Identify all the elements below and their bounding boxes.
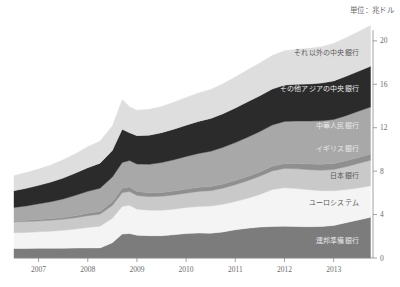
series-label-5: ユーロシステム bbox=[309, 199, 359, 207]
stacked-area-chart: 0481216202007200820092010201120122013 それ… bbox=[0, 0, 400, 287]
series-label-2: 中華人民銀行 bbox=[316, 121, 359, 130]
y-tick-label-16: 16 bbox=[380, 80, 388, 89]
chart-container: 単位：兆ドル 048121620200720082009201020112012… bbox=[0, 0, 400, 287]
series-label-1: その他アジアの中央銀行 bbox=[280, 84, 359, 93]
series-label-6: 連邦準備銀行 bbox=[316, 236, 359, 245]
x-tick-label-2008: 2008 bbox=[80, 265, 95, 274]
x-tick-label-2013: 2013 bbox=[326, 265, 341, 274]
y-tick-label-4: 4 bbox=[380, 210, 384, 219]
area-series-group bbox=[14, 26, 371, 258]
x-tick-label-2009: 2009 bbox=[129, 265, 144, 274]
series-label-3: イギリス銀行 bbox=[316, 144, 359, 153]
x-tick-label-2012: 2012 bbox=[277, 265, 292, 274]
y-tick-label-12: 12 bbox=[380, 123, 388, 132]
series-label-0: それ以外の中央銀行 bbox=[294, 48, 359, 57]
y-tick-label-20: 20 bbox=[380, 36, 388, 45]
x-tick-label-2007: 2007 bbox=[31, 265, 46, 274]
series-label-4: 日本銀行 bbox=[330, 171, 359, 180]
x-tick-label-2011: 2011 bbox=[228, 265, 243, 274]
y-tick-label-0: 0 bbox=[380, 254, 384, 263]
y-tick-label-8: 8 bbox=[380, 167, 384, 176]
x-tick-label-2010: 2010 bbox=[179, 265, 194, 274]
